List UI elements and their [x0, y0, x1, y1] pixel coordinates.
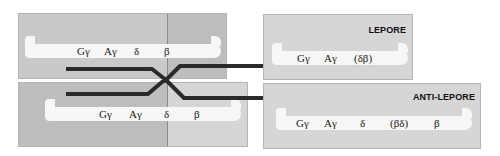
strand-bottom-to-anti-lepore	[66, 80, 263, 98]
crossover-strands	[0, 0, 500, 156]
strand-top-to-lepore	[66, 66, 263, 80]
